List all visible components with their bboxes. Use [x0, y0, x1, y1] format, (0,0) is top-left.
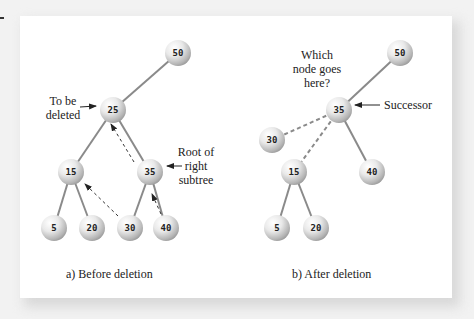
tree-node: 40	[153, 215, 179, 241]
tree-node: 20	[79, 215, 105, 241]
caption-after-deletion: b) After deletion	[292, 267, 371, 282]
label-line: To be	[44, 94, 82, 108]
svg-text:25: 25	[108, 105, 119, 115]
tree-node: 20	[303, 215, 329, 241]
svg-text:30: 30	[125, 223, 136, 233]
label-line: node goes	[287, 62, 347, 76]
caption-before-deletion: a) Before deletion	[66, 267, 153, 282]
svg-text:15: 15	[66, 167, 77, 177]
label-line: deleted	[44, 108, 82, 122]
label-line: subtree	[176, 173, 216, 187]
to-be-deleted-label: To be deleted	[44, 94, 82, 122]
svg-text:20: 20	[311, 223, 322, 233]
tree-node: 50	[387, 40, 413, 66]
svg-text:15: 15	[289, 167, 300, 177]
tree-node: 50	[165, 40, 191, 66]
to-be-deleted-arrow	[80, 106, 96, 107]
successor-label: Successor	[384, 98, 432, 112]
tree-node: 35	[326, 97, 352, 123]
edges-panel-a	[54, 53, 178, 228]
tree-node: 25	[100, 97, 126, 123]
svg-text:20: 20	[87, 223, 98, 233]
svg-text:30: 30	[267, 135, 278, 145]
which-node-goes-here-label: Which node goes here?	[287, 48, 347, 90]
tree-node: 15	[281, 159, 307, 185]
svg-text:5: 5	[274, 223, 279, 233]
svg-text:50: 50	[173, 48, 184, 58]
tree-node: 30	[259, 127, 285, 153]
tree-node: 40	[359, 159, 385, 185]
svg-text:35: 35	[145, 167, 156, 177]
label-line: right	[176, 159, 216, 173]
tree-node: 30	[117, 215, 143, 241]
svg-text:40: 40	[161, 223, 172, 233]
tree-node: 5	[264, 215, 290, 241]
label-line: here?	[287, 76, 347, 90]
svg-text:35: 35	[334, 105, 345, 115]
root-of-right-subtree-label: Root of right subtree	[176, 145, 216, 187]
nodes-panel-a: 50 25 15 35 5 20 30 40	[41, 40, 191, 241]
label-line: Which	[287, 48, 347, 62]
svg-text:5: 5	[51, 223, 56, 233]
svg-text:40: 40	[367, 167, 378, 177]
svg-text:50: 50	[395, 48, 406, 58]
tree-node: 5	[41, 215, 67, 241]
tree-node: 15	[58, 159, 84, 185]
label-line: Root of	[176, 145, 216, 159]
tree-node: 35	[137, 159, 163, 185]
